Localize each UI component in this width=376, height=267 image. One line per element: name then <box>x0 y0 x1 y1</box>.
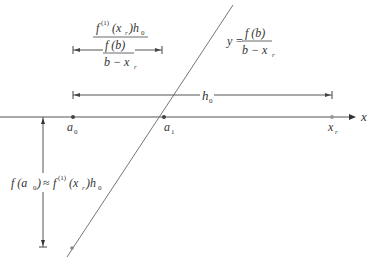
point-a1: a 1 <box>162 115 175 136</box>
svg-text:r: r <box>82 184 85 192</box>
svg-text:0: 0 <box>141 29 145 37</box>
secant-line-end-point <box>70 246 74 250</box>
svg-text:(x: (x <box>112 21 122 35</box>
vertical-dimension: f (a 0 ) ≈ f (1) (x r )h 0 <box>11 117 102 247</box>
vertical-bottom-arrow-icon <box>41 240 45 246</box>
point-a0: a 0 <box>67 115 78 136</box>
top-dimension: f (1) (x r )h 0 f (b) b − x r <box>73 19 162 71</box>
svg-text:r: r <box>125 29 128 37</box>
svg-text:(1): (1) <box>58 174 67 182</box>
svg-text:)h: )h <box>128 21 139 35</box>
top-right-arrow-icon <box>155 48 161 52</box>
secant-method-diagram: x a 0 a 1 x r h 0 <box>0 0 376 267</box>
point-xr-subscript: r <box>335 128 338 136</box>
top-left-arrow-icon <box>74 48 80 52</box>
svg-text:): ) <box>36 176 41 190</box>
top-numerator: f (1) (x r )h 0 <box>96 19 145 37</box>
point-a1-label: a <box>164 120 170 134</box>
svg-text:r: r <box>272 51 275 59</box>
h0-label: h <box>202 88 209 103</box>
svg-text:)h: )h <box>85 176 96 190</box>
svg-text:y =: y = <box>226 34 243 48</box>
h0-left-arrow-icon <box>74 93 80 97</box>
point-a1-subscript: 1 <box>171 128 175 136</box>
svg-text:f (b): f (b) <box>245 26 265 40</box>
h0-subscript: 0 <box>209 97 213 105</box>
secant-line <box>67 5 233 257</box>
secant-line-label: y = f (b) b − x r <box>226 26 275 59</box>
top-denominator-sub: r <box>134 63 137 71</box>
svg-text:0: 0 <box>98 184 102 192</box>
svg-text:f (a: f (a <box>11 176 27 190</box>
x-axis-label: x <box>360 109 367 124</box>
point-a0-label: a <box>67 120 73 134</box>
top-denominator: b − x <box>104 55 130 69</box>
x-axis: x <box>0 109 367 124</box>
x-axis-arrow-icon <box>349 114 356 120</box>
svg-text:(x: (x <box>69 176 79 190</box>
vertical-top-arrow-icon <box>41 118 45 124</box>
svg-text:(1): (1) <box>101 19 110 27</box>
top-middle-fb: f (b) <box>105 38 125 52</box>
svg-text:b − x: b − x <box>242 43 268 57</box>
h0-dimension: h 0 <box>73 88 332 105</box>
svg-text:≈: ≈ <box>43 176 50 190</box>
point-a0-subscript: 0 <box>74 128 78 136</box>
h0-right-arrow-icon <box>325 93 331 97</box>
vertical-dimension-label: f (a 0 ) ≈ f (1) (x r )h 0 <box>11 174 102 192</box>
point-xr-label: x <box>327 120 334 134</box>
point-xr: x r <box>327 115 338 136</box>
